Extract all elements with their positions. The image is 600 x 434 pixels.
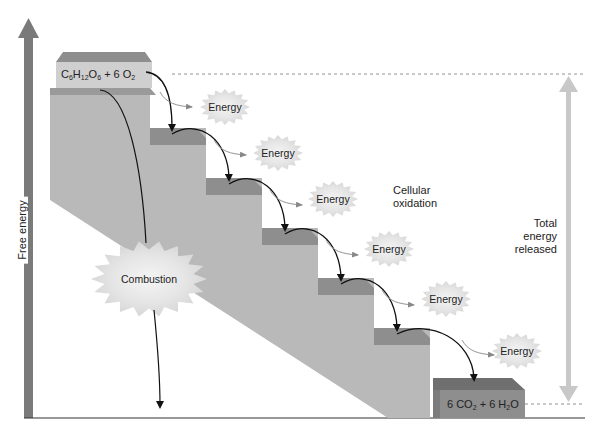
reactants-label: C6H12O6 + 6 O2 (61, 68, 135, 81)
total-energy-label: Total energy released (500, 217, 557, 256)
energy-label-6: Energy (500, 345, 533, 357)
combustion-label: Combustion (121, 273, 177, 285)
y-axis-label: Free energy (16, 196, 28, 263)
products-label: 6 CO2 + 6 H2O (447, 398, 519, 411)
energy-label-1: Energy (208, 101, 241, 113)
total-energy-arrow (559, 76, 578, 402)
cellular-oxidation-label: Cellular oxidation (393, 184, 437, 210)
energy-label-3: Energy (316, 193, 349, 205)
energy-label-5: Energy (429, 293, 462, 305)
energy-label-4: Energy (372, 243, 405, 255)
energy-label-2: Energy (261, 147, 294, 159)
